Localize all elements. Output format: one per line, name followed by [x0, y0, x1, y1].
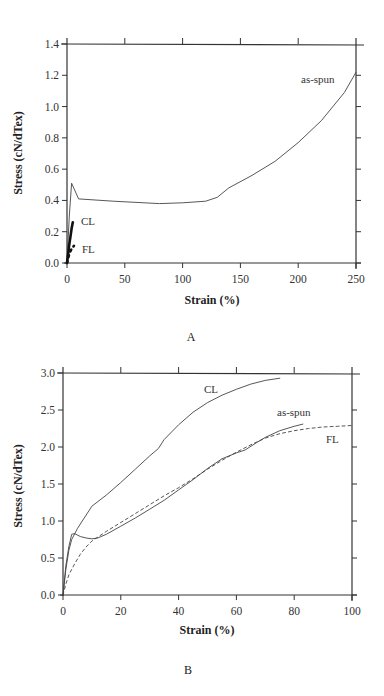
- series-label-fl-b: FL: [326, 433, 339, 445]
- series-label-as-spun-a: as-spun: [301, 73, 335, 85]
- x-tick-label: 200: [290, 273, 308, 285]
- x-tick-label: 80: [288, 605, 300, 617]
- x-axis-title-a: Strain (%): [185, 293, 240, 307]
- panel-caption-b: B: [184, 663, 192, 677]
- y-tick-label: 0.6: [45, 163, 60, 175]
- y-tick-label: 0.2: [45, 226, 60, 238]
- y-tick-label: 1.0: [41, 515, 56, 527]
- y-tick-label: 3.0: [41, 367, 56, 379]
- x-tick-label: 60: [231, 605, 243, 617]
- y-tick-label: 2.0: [41, 441, 56, 453]
- x-axis-top: [61, 44, 364, 45]
- x-tick-label: 50: [119, 273, 131, 285]
- y-axis-title-b: Stress (cN/dTex): [11, 444, 25, 528]
- series-line-cl: [63, 378, 280, 595]
- series-line-fl: [63, 426, 352, 596]
- panel-caption-a: A: [187, 330, 196, 344]
- y-axis-title-a: Stress (cN/dTex): [11, 111, 25, 195]
- y-tick-label: 1.5: [41, 478, 56, 490]
- x-axis-top: [57, 373, 360, 374]
- x-tick-label: 250: [347, 273, 365, 285]
- x-tick-label: 0: [60, 605, 66, 617]
- series-label-cl-b: CL: [204, 383, 218, 395]
- y-tick-label: 0.5: [41, 552, 56, 564]
- x-tick-label: 40: [173, 605, 185, 617]
- y-tick-label: 0.4: [45, 194, 60, 206]
- figure: 0.00.20.40.60.81.01.21.4050100150200250 …: [0, 0, 384, 696]
- x-tick-label: 100: [174, 273, 192, 285]
- y-tick-label: 0.0: [45, 257, 60, 269]
- x-tick-label: 20: [115, 605, 127, 617]
- series-line-as-spun: [67, 72, 356, 263]
- x-tick-label: 100: [343, 605, 361, 617]
- y-tick-label: 2.5: [41, 404, 56, 416]
- y-tick-label: 0.8: [45, 132, 60, 144]
- y-tick-label: 1.2: [45, 69, 60, 81]
- y-tick-label: 0.0: [41, 589, 56, 601]
- series-line-as-spun: [63, 424, 303, 595]
- chart-panel-b: 0.00.51.01.52.02.53.0020406080100: [41, 367, 361, 617]
- x-tick-label: 0: [64, 273, 70, 285]
- x-tick-label: 150: [232, 273, 250, 285]
- series-label-cl-a: CL: [81, 215, 95, 227]
- y-tick-label: 1.0: [45, 101, 60, 113]
- series-label-as-spun-b: as-spun: [277, 406, 311, 418]
- x-axis-title-b: Strain (%): [180, 623, 235, 637]
- series-label-fl-a: FL: [82, 243, 95, 255]
- y-tick-label: 1.4: [45, 38, 60, 50]
